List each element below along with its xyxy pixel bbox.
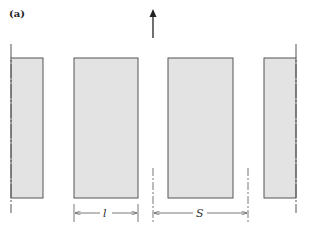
blade-left [74,58,138,198]
blade-right [168,58,233,198]
panel-label: (a) [9,8,25,19]
flow-arrow-icon [150,9,157,38]
chord-dimension: l [74,204,138,222]
blade-partial-left [11,58,43,198]
blade-partial-right [264,58,296,198]
cascade-diagram: (a) l S [0,0,314,238]
chord-label: l [103,207,107,220]
spacing-label: S [196,207,204,220]
